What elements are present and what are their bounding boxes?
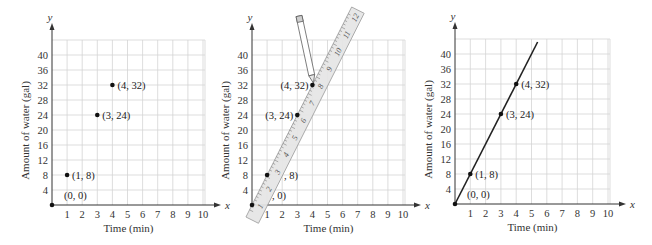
y-axis-title: Amount of water (gal)	[219, 81, 232, 180]
x-tick-label: 4	[310, 209, 316, 220]
x-tick-label: 6	[140, 209, 145, 220]
y-tick-label: 20	[441, 124, 452, 135]
y-tick-label: 32	[38, 80, 49, 91]
data-point	[110, 83, 115, 88]
x-tick-label: 5	[325, 209, 330, 220]
y-tick-label: 28	[38, 95, 49, 106]
x-tick-label: 8	[370, 209, 375, 220]
y-tick-label: 20	[238, 125, 249, 136]
data-point	[310, 83, 315, 88]
x-tick-label: 2	[483, 208, 488, 219]
y-tick-label: 16	[441, 139, 452, 150]
y-tick-label: 12	[441, 154, 452, 165]
point-label: (1, 8)	[72, 170, 95, 182]
x-var-label: x	[424, 199, 430, 211]
y-tick-label: 24	[441, 109, 452, 120]
x-axis-title: Time (min)	[303, 222, 353, 235]
point-label: (0, 0)	[467, 189, 490, 201]
chart-2: yx12345678910481216202428323640Time (min…	[219, 7, 430, 235]
data-point	[453, 202, 458, 207]
data-point	[499, 112, 504, 117]
point-label: (4, 32)	[521, 79, 549, 91]
point-label: (4, 32)	[280, 80, 308, 92]
x-tick-label: 3	[498, 208, 503, 219]
y-tick-label: 40	[38, 50, 49, 61]
y-tick-label: 32	[238, 80, 249, 91]
x-arrow-icon	[414, 203, 421, 208]
x-tick-label: 9	[590, 208, 595, 219]
y-tick-label: 32	[441, 79, 452, 90]
x-tick-label: 3	[295, 209, 300, 220]
y-tick-label: 8	[243, 170, 248, 181]
y-tick-label: 12	[38, 155, 49, 166]
data-point	[514, 82, 519, 87]
point-label: (3, 24)	[265, 110, 293, 122]
data-point	[50, 203, 55, 208]
x-axis-title: Time (min)	[507, 221, 557, 234]
y-tick-label: 4	[43, 185, 49, 196]
x-tick-label: 9	[385, 209, 390, 220]
point-label: , 0)	[272, 190, 287, 202]
point-label: , 8)	[284, 170, 299, 182]
data-point	[65, 173, 70, 178]
x-tick-label: 8	[170, 209, 175, 220]
x-tick-label: 6	[544, 208, 549, 219]
x-tick-label: 4	[110, 209, 116, 220]
x-tick-label: 7	[155, 209, 160, 220]
x-tick-label: 4	[514, 208, 520, 219]
x-tick-label: 7	[355, 209, 360, 220]
x-tick-label: 3	[95, 209, 100, 220]
y-arrow-icon	[453, 22, 458, 29]
x-tick-label: 8	[575, 208, 580, 219]
y-tick-label: 8	[43, 170, 48, 181]
figure: yx12345678910481216202428323640Time (min…	[0, 0, 652, 245]
point-label: (0, 0)	[64, 190, 87, 202]
data-point	[468, 172, 473, 177]
y-tick-label: 36	[238, 65, 249, 76]
data-point	[250, 203, 255, 208]
axes: yx	[47, 11, 230, 211]
y-axis-title: Amount of water (gal)	[19, 81, 32, 180]
x-tick-label: 1	[468, 208, 473, 219]
x-tick-label: 1	[64, 209, 69, 220]
y-tick-label: 40	[441, 49, 452, 60]
pencil-icon	[296, 15, 316, 83]
point-label: (1, 8)	[475, 169, 498, 181]
data-point	[95, 113, 100, 118]
charts-canvas: yx12345678910481216202428323640Time (min…	[0, 0, 652, 245]
y-tick-label: 4	[243, 185, 249, 196]
data-point	[295, 113, 300, 118]
y-tick-label: 12	[238, 155, 249, 166]
point-label: (3, 24)	[102, 110, 130, 122]
x-tick-label: 7	[559, 208, 564, 219]
y-tick-label: 28	[441, 94, 452, 105]
y-var-label: y	[47, 11, 53, 23]
x-tick-label: 10	[398, 209, 409, 220]
y-tick-label: 8	[446, 169, 451, 180]
y-var-label: y	[247, 11, 253, 23]
x-arrow-icon	[619, 202, 626, 207]
x-tick-label: 2	[280, 209, 285, 220]
y-tick-label: 40	[238, 50, 249, 61]
x-var-label: x	[224, 199, 230, 211]
y-tick-label: 4	[446, 184, 452, 195]
x-tick-label: 5	[125, 209, 130, 220]
y-axis-title: Amount of water (gal)	[422, 80, 435, 179]
x-tick-label: 9	[185, 209, 190, 220]
y-tick-label: 24	[38, 110, 49, 121]
point-label: (3, 24)	[506, 109, 534, 121]
y-tick-label: 24	[238, 110, 249, 121]
point-label: (4, 32)	[117, 80, 145, 92]
y-var-label: y	[450, 10, 456, 22]
axes: yx	[450, 10, 635, 210]
y-arrow-icon	[250, 23, 255, 30]
y-tick-label: 16	[238, 140, 249, 151]
y-tick-label: 20	[38, 125, 49, 136]
fitted-line	[455, 42, 538, 204]
y-tick-label: 36	[38, 65, 49, 76]
y-arrow-icon	[50, 23, 55, 30]
x-arrow-icon	[214, 203, 221, 208]
chart-1: yx12345678910481216202428323640Time (min…	[19, 11, 230, 235]
y-tick-label: 28	[238, 95, 249, 106]
x-var-label: x	[629, 198, 635, 210]
